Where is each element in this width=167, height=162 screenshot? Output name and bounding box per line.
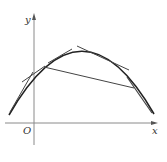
origin-label: O [23,126,31,136]
tangent-line-left [10,72,33,112]
tangent-line-top-right [77,46,129,70]
y-axis-label: y [25,15,31,25]
function-graph-figure: y O x [0,0,167,162]
parabola-curve [9,51,154,115]
tangent-line-top-left [48,49,72,63]
y-axis-arrow-icon [32,13,36,20]
x-axis-label: x [152,126,158,136]
tangent-line-right [127,77,152,113]
